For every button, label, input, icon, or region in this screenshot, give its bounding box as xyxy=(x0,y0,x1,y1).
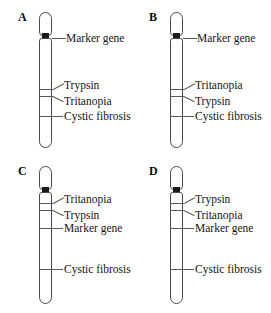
locus-tick-tritanopia xyxy=(39,203,53,204)
locus-leader-tritanopia xyxy=(53,197,64,204)
panel-a: A Marker gene Trypsin Tritanopia Cystic … xyxy=(0,0,135,156)
panel-label-a: A xyxy=(18,11,27,23)
panel-d: D Trypsin Tritanopia Marker gene Cystic … xyxy=(136,156,271,312)
chromosome-long-arm xyxy=(39,38,52,148)
locus-label-tritanopia: Tritanopia xyxy=(195,210,243,222)
panel-label-b: B xyxy=(149,11,157,23)
locus-tick-cystic-fibrosis xyxy=(170,116,194,117)
locus-label-trypsin: Trypsin xyxy=(64,210,99,222)
locus-label-trypsin: Trypsin xyxy=(195,194,230,206)
panel-label-d: D xyxy=(149,165,158,177)
locus-tick-tritanopia xyxy=(170,89,184,90)
locus-label-cystic-fibrosis: Cystic fibrosis xyxy=(64,264,131,276)
locus-leader-tritanopia xyxy=(184,210,195,216)
locus-tick-marker-gene xyxy=(183,38,197,39)
locus-tick-tritanopia xyxy=(170,210,184,211)
chromosome-figure: A Marker gene Trypsin Tritanopia Cystic … xyxy=(0,0,271,313)
locus-label-trypsin: Trypsin xyxy=(195,96,230,108)
locus-tick-trypsin xyxy=(39,89,53,90)
locus-leader-trypsin xyxy=(53,83,64,90)
locus-leader-trypsin xyxy=(184,96,195,102)
locus-label-cystic-fibrosis: Cystic fibrosis xyxy=(195,264,262,276)
locus-tick-tritanopia xyxy=(39,96,53,97)
panel-c: C Tritanopia Trypsin Marker gene Cystic … xyxy=(0,156,135,312)
locus-tick-cystic-fibrosis xyxy=(170,269,194,270)
locus-leader-tritanopia xyxy=(53,96,64,102)
locus-leader-trypsin xyxy=(184,197,195,204)
locus-label-marker-gene: Marker gene xyxy=(64,223,122,235)
locus-label-cystic-fibrosis: Cystic fibrosis xyxy=(64,111,131,123)
locus-label-marker-gene: Marker gene xyxy=(195,223,253,235)
locus-tick-cystic-fibrosis xyxy=(39,116,63,117)
locus-label-marker-gene: Marker gene xyxy=(66,33,124,45)
locus-label-tritanopia: Tritanopia xyxy=(64,96,112,108)
chromosome-long-arm xyxy=(170,38,183,148)
locus-label-cystic-fibrosis: Cystic fibrosis xyxy=(195,111,262,123)
locus-tick-trypsin xyxy=(170,96,184,97)
locus-label-tritanopia: Tritanopia xyxy=(64,194,112,206)
locus-tick-trypsin xyxy=(170,203,184,204)
locus-label-trypsin: Trypsin xyxy=(64,80,99,92)
locus-tick-cystic-fibrosis xyxy=(39,269,63,270)
locus-tick-marker-gene xyxy=(39,228,63,229)
locus-tick-marker-gene xyxy=(52,38,66,39)
locus-tick-trypsin xyxy=(39,210,53,211)
panel-b: B Marker gene Tritanopia Trypsin Cystic … xyxy=(136,0,271,156)
locus-leader-tritanopia xyxy=(184,83,195,90)
locus-label-marker-gene: Marker gene xyxy=(197,33,255,45)
locus-leader-trypsin xyxy=(53,210,64,216)
panel-label-c: C xyxy=(18,165,27,177)
chromosome-long-arm xyxy=(39,192,52,304)
locus-label-tritanopia: Tritanopia xyxy=(195,80,243,92)
locus-tick-marker-gene xyxy=(170,228,194,229)
chromosome-long-arm xyxy=(170,192,183,304)
